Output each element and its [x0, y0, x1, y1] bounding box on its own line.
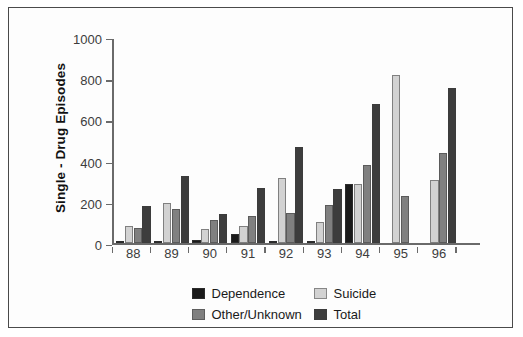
bar-group	[116, 37, 151, 243]
y-tick-mark	[106, 163, 112, 164]
x-axis-line	[112, 243, 480, 245]
bar	[345, 184, 353, 244]
chart-frame: Single - Drug Episodes 02004006008001000…	[8, 7, 513, 328]
legend-swatch	[314, 288, 327, 299]
plot-area: 02004006008001000 888990919293949596	[112, 32, 482, 245]
bar-group	[192, 37, 227, 243]
x-tick-mark	[379, 247, 380, 253]
x-tick-mark	[264, 247, 265, 253]
bar-group	[154, 37, 189, 243]
x-tick-label: 90	[202, 246, 216, 261]
bar	[192, 240, 200, 243]
bar-group	[269, 37, 304, 243]
bar	[210, 220, 218, 244]
bar	[325, 205, 333, 243]
bar	[125, 226, 133, 244]
bar	[372, 104, 380, 243]
legend-swatch	[192, 288, 205, 299]
legend-item: Dependence	[192, 284, 304, 303]
legend-label: Other/Unknown	[212, 307, 302, 322]
y-tick-mark	[106, 39, 112, 40]
y-tick-label: 0	[95, 238, 102, 253]
y-tick-mark	[106, 80, 112, 81]
legend-swatch	[192, 309, 205, 320]
legend-label: Suicide	[334, 286, 377, 301]
y-tick-label: 1000	[73, 32, 102, 47]
bar	[257, 188, 265, 244]
legend-swatch	[314, 309, 327, 320]
bar-group	[345, 37, 380, 243]
y-tick-label: 400	[80, 155, 102, 170]
bar	[439, 153, 447, 244]
x-tick-label: 89	[164, 246, 178, 261]
x-tick-mark	[150, 247, 151, 253]
bar-group	[422, 37, 457, 243]
bar	[286, 213, 294, 244]
x-tick-label: 91	[241, 246, 255, 261]
x-tick-label: 88	[126, 246, 140, 261]
x-tick-mark	[303, 247, 304, 253]
bar	[116, 241, 124, 243]
bar	[448, 88, 456, 244]
bar	[316, 222, 324, 244]
y-axis-title: Single - Drug Episodes	[53, 38, 73, 238]
x-tick-label: 95	[393, 246, 407, 261]
y-tick-label: 200	[80, 196, 102, 211]
bar	[201, 229, 209, 243]
bar-group	[307, 37, 342, 243]
y-axis-line	[112, 39, 114, 245]
legend-label: Dependence	[212, 286, 286, 301]
x-tick-label: 96	[432, 246, 446, 261]
x-tick-mark	[112, 247, 113, 253]
bar	[269, 241, 277, 243]
y-tick-label: 800	[80, 73, 102, 88]
bar	[363, 165, 371, 243]
bar	[401, 196, 409, 243]
y-tick-label: 600	[80, 114, 102, 129]
x-tick-label: 93	[317, 246, 331, 261]
bar	[392, 75, 400, 244]
bar	[295, 147, 303, 244]
legend-item: Total	[314, 305, 418, 324]
bar	[163, 203, 171, 243]
bar-group	[231, 37, 266, 243]
bar	[333, 189, 341, 244]
x-tick-mark	[455, 247, 456, 253]
x-tick-mark	[417, 247, 418, 253]
bar	[307, 241, 315, 243]
bar	[430, 180, 438, 244]
legend-item: Other/Unknown	[192, 305, 304, 324]
x-tick-mark	[188, 247, 189, 253]
legend-item: Suicide	[314, 284, 418, 303]
bar	[278, 178, 286, 244]
bar	[219, 214, 227, 244]
y-tick-mark	[106, 204, 112, 205]
x-tick-label: 94	[355, 246, 369, 261]
chart-legend: DependenceSuicideOther/UnknownTotal	[192, 284, 442, 324]
x-tick-mark	[341, 247, 342, 253]
x-tick-label: 92	[279, 246, 293, 261]
bar	[181, 176, 189, 243]
bar	[248, 216, 256, 244]
bar	[239, 226, 247, 244]
y-tick-mark	[106, 121, 112, 122]
bar	[354, 184, 362, 244]
bar	[142, 206, 150, 243]
bar-group	[383, 37, 418, 243]
bar	[231, 234, 239, 243]
bar	[134, 228, 142, 243]
bar	[172, 209, 180, 243]
chart-figure: Single - Drug Episodes 02004006008001000…	[0, 0, 523, 337]
legend-label: Total	[334, 307, 361, 322]
bar	[154, 241, 162, 243]
x-tick-mark	[226, 247, 227, 253]
